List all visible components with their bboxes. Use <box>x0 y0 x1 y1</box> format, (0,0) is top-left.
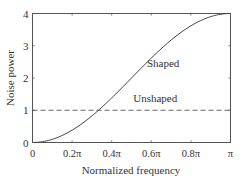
annotation-shaped: Shaped <box>147 57 180 69</box>
shaped-series-line <box>33 14 231 143</box>
y-tick-label: 0 <box>23 137 29 149</box>
y-tick-label: 4 <box>23 8 29 20</box>
noise-power-chart: 00.2π0.4π0.6π0.8ππ 01234 Normalized freq… <box>0 0 245 178</box>
x-tick-label: 0.2π <box>63 148 82 159</box>
x-tick-label: 0.4π <box>102 148 121 159</box>
y-tick-label: 2 <box>23 72 29 84</box>
y-tick-labels: 01234 <box>23 8 29 149</box>
y-axis-label: Noise power <box>4 50 16 106</box>
x-tick-labels: 00.2π0.4π0.6π0.8ππ <box>30 148 234 159</box>
x-tick-label: π <box>228 148 234 159</box>
y-tick-label: 1 <box>23 104 29 116</box>
x-tick-label: 0.8π <box>182 148 201 159</box>
series-annotations: ShapedUnshaped <box>133 57 180 104</box>
x-tick-label: 0.6π <box>142 148 161 159</box>
x-axis-label: Normalized frequency <box>82 164 181 176</box>
y-tick-label: 3 <box>23 40 29 52</box>
annotation-unshaped: Unshaped <box>133 92 177 104</box>
x-tick-label: 0 <box>30 148 35 159</box>
